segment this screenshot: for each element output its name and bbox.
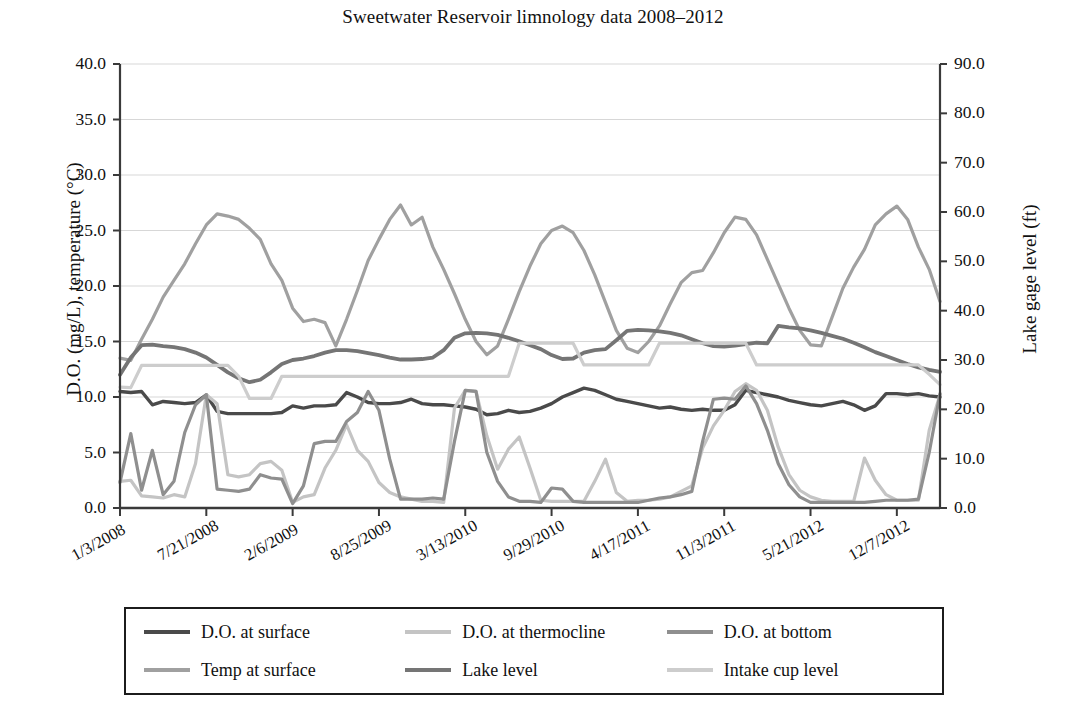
series-line-2 xyxy=(120,386,940,504)
y-axis-left-tick-label: 0.0 xyxy=(0,497,106,518)
legend-item-label: Temp at surface xyxy=(201,660,316,681)
series-line-3 xyxy=(120,205,940,360)
legend-line-swatch xyxy=(144,630,190,634)
legend-line-swatch xyxy=(405,630,451,634)
legend-item-label: D.O. at thermocline xyxy=(462,622,605,643)
y-axis-left-tick-label: 25.0 xyxy=(0,220,106,241)
legend-line-swatch xyxy=(667,668,713,672)
y-axis-right-tick-label: 80.0 xyxy=(954,102,985,123)
legend-item-label: Lake level xyxy=(462,660,537,681)
data-series-group xyxy=(120,205,940,504)
y-axis-left-tick-label: 20.0 xyxy=(0,275,106,296)
series-line-4 xyxy=(120,326,940,382)
chart-figure: Sweetwater Reservoir limnology data 2008… xyxy=(0,0,1066,725)
legend-item-label: Intake cup level xyxy=(724,660,839,681)
legend-item[interactable]: D.O. at bottom xyxy=(667,622,928,643)
legend-line-swatch xyxy=(667,630,713,634)
y-axis-left-tick-label: 5.0 xyxy=(0,442,106,463)
axes xyxy=(113,64,947,516)
series-line-0 xyxy=(120,388,940,415)
y-axis-right-tick-label: 20.0 xyxy=(954,398,985,419)
y-axis-right-tick-label: 60.0 xyxy=(954,201,985,222)
y-axis-right-tick-label: 0.0 xyxy=(954,497,976,518)
y-axis-right-tick-label: 40.0 xyxy=(954,300,985,321)
y-axis-right-tick-label: 10.0 xyxy=(954,448,985,469)
legend-grid: D.O. at surfaceD.O. at thermoclineD.O. a… xyxy=(126,609,942,693)
y-axis-left-tick-label: 40.0 xyxy=(0,53,106,74)
y-axis-right-tick-label: 30.0 xyxy=(954,349,985,370)
legend-item[interactable]: Temp at surface xyxy=(144,660,405,681)
legend-line-swatch xyxy=(144,668,190,672)
legend-item-label: D.O. at bottom xyxy=(724,622,832,643)
gridlines xyxy=(120,64,940,453)
legend-item[interactable]: Lake level xyxy=(405,660,666,681)
legend-item-label: D.O. at surface xyxy=(201,622,310,643)
y-axis-left-tick-label: 10.0 xyxy=(0,386,106,407)
y-axis-right-tick-label: 50.0 xyxy=(954,250,985,271)
legend-line-swatch xyxy=(405,668,451,672)
y-axis-right-tick-label: 90.0 xyxy=(954,53,985,74)
series-line-5 xyxy=(120,343,940,398)
y-axis-left-tick-label: 35.0 xyxy=(0,109,106,130)
y-axis-left-tick-label: 30.0 xyxy=(0,164,106,185)
series-line-1 xyxy=(120,384,940,503)
y-axis-right-tick-label: 70.0 xyxy=(954,152,985,173)
legend-item[interactable]: Intake cup level xyxy=(667,660,928,681)
y-axis-left-tick-label: 15.0 xyxy=(0,331,106,352)
legend-item[interactable]: D.O. at thermocline xyxy=(405,622,666,643)
legend-item[interactable]: D.O. at surface xyxy=(144,622,405,643)
legend: D.O. at surfaceD.O. at thermoclineD.O. a… xyxy=(124,607,944,695)
